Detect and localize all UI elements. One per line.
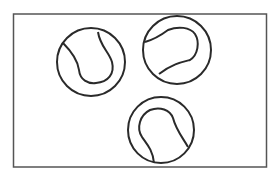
frame <box>14 14 267 167</box>
illustration <box>0 0 268 182</box>
